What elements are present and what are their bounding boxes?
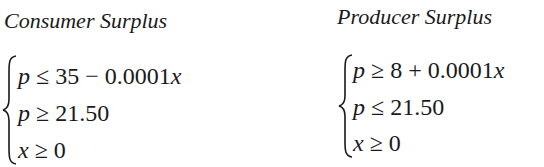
consumer-constraint-3: x≥0 [18, 138, 66, 162]
left-brace-icon [2, 55, 18, 165]
producer-constraint-3: x≥0 [353, 131, 401, 155]
producer-surplus-title: Producer Surplus [337, 4, 492, 30]
left-brace-icon [338, 54, 354, 158]
producer-constraint-1: p≥8 + 0.0001x [353, 58, 504, 82]
producer-constraint-2: p≤21.50 [353, 95, 444, 119]
consumer-surplus-title: Consumer Surplus [4, 8, 167, 34]
consumer-constraint-2: p≥21.50 [18, 101, 109, 125]
consumer-constraint-1: p≤35 − 0.0001x [18, 64, 181, 88]
